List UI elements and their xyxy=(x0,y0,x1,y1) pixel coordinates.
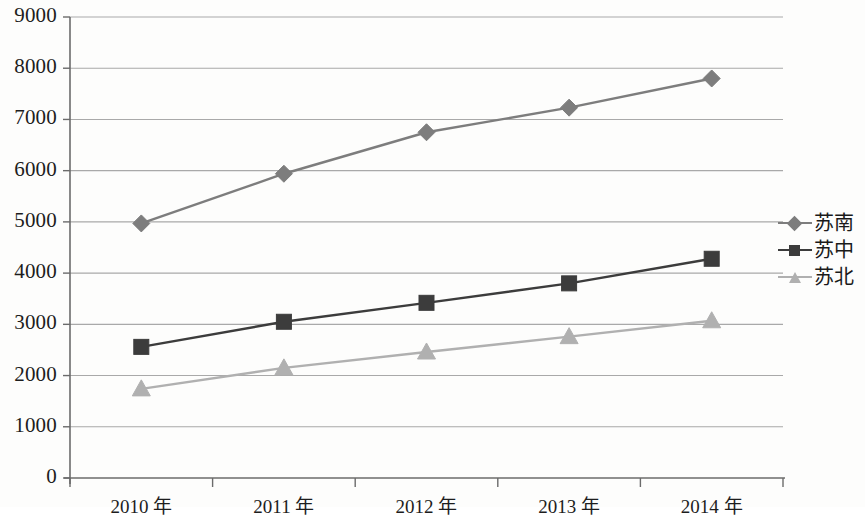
x-axis-tick-label: 2011 年 xyxy=(213,491,356,518)
axes xyxy=(64,17,785,484)
data-point-marker xyxy=(703,312,721,328)
square-marker-icon xyxy=(789,245,800,256)
y-axis-tick-label: 2000 xyxy=(0,362,57,387)
legend-swatch xyxy=(778,268,812,286)
data-point-marker xyxy=(276,314,291,329)
data-point-marker xyxy=(275,165,292,182)
triangle-marker-icon xyxy=(789,272,801,283)
x-axis-tick-label: 2014 年 xyxy=(640,491,783,518)
data-point-marker xyxy=(704,251,719,266)
legend-label: 苏中 xyxy=(812,240,854,260)
x-axis-ticks xyxy=(70,478,783,487)
legend-item-2: 苏中 xyxy=(778,236,864,263)
gridlines xyxy=(70,17,783,427)
y-axis-tick-label: 7000 xyxy=(0,105,57,130)
data-point-marker xyxy=(419,295,434,310)
y-axis-tick-label: 4000 xyxy=(0,259,57,284)
legend-swatch xyxy=(778,214,812,232)
y-axis-tick-label: 6000 xyxy=(0,157,57,182)
data-point-marker xyxy=(133,215,150,232)
data-point-marker xyxy=(418,124,435,141)
x-axis-tick-label: 2012 年 xyxy=(355,491,498,518)
legend-label: 苏北 xyxy=(812,267,854,287)
data-point-marker xyxy=(562,276,577,291)
series-2 xyxy=(134,251,719,354)
y-axis-tick-label: 8000 xyxy=(0,54,57,79)
y-axis-tick-label: 3000 xyxy=(0,310,57,335)
data-series-layer xyxy=(132,70,720,396)
data-point-marker xyxy=(703,70,720,87)
data-point-marker xyxy=(134,339,149,354)
y-axis-ticks xyxy=(63,17,70,478)
y-axis-tick-label: 5000 xyxy=(0,208,57,233)
legend-item-3: 苏北 xyxy=(778,263,864,290)
legend-item-1: 苏南 xyxy=(778,209,864,236)
x-axis-tick-label: 2013 年 xyxy=(498,491,641,518)
series-line xyxy=(141,78,711,223)
y-axis-tick-label: 0 xyxy=(0,464,57,489)
series-1 xyxy=(133,70,720,232)
x-axis-tick-label: 2010 年 xyxy=(70,491,213,518)
diamond-marker-icon xyxy=(787,215,803,231)
data-point-marker xyxy=(561,99,578,116)
y-axis-tick-label: 9000 xyxy=(0,3,57,28)
y-axis-tick-label: 1000 xyxy=(0,413,57,438)
chart-legend: 苏南苏中苏北 xyxy=(778,209,864,290)
legend-label: 苏南 xyxy=(812,213,854,233)
legend-swatch xyxy=(778,241,812,259)
